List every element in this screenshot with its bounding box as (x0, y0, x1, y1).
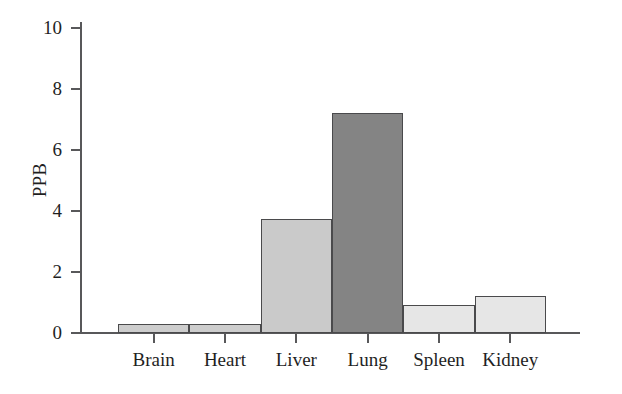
y-tick-mark (71, 271, 80, 273)
y-tick-mark (71, 332, 80, 334)
bar-kidney (475, 296, 546, 333)
bar-chart: PPB 0246810 BrainHeartLiverLungSpleenKid… (0, 0, 622, 394)
x-tick-mark (509, 334, 511, 343)
y-tick-label-wrap: 8 (0, 79, 62, 98)
x-tick-mark (367, 334, 369, 343)
bar-lung (332, 113, 403, 333)
y-tick-mark (71, 27, 80, 29)
y-tick-label: 2 (6, 262, 62, 281)
y-tick-mark (71, 149, 80, 151)
bar-brain (118, 324, 189, 333)
y-tick-label-wrap: 2 (0, 262, 62, 281)
x-tick-mark (438, 334, 440, 343)
y-axis-line (80, 22, 82, 334)
y-tick-label-wrap: 4 (0, 201, 62, 220)
y-tick-mark (71, 210, 80, 212)
y-tick-label: 10 (6, 18, 62, 37)
x-tick-mark (224, 334, 226, 343)
x-tick-mark (153, 334, 155, 343)
bar-heart (189, 324, 260, 333)
y-tick-mark (71, 88, 80, 90)
y-tick-label: 6 (6, 140, 62, 159)
y-tick-label-wrap: 6 (0, 140, 62, 159)
y-tick-label: 4 (6, 201, 62, 220)
x-tick-mark (295, 334, 297, 343)
y-tick-label-wrap: 0 (0, 323, 62, 342)
bar-liver (261, 219, 332, 333)
x-tick-label-kidney: Kidney (450, 349, 570, 371)
y-tick-label-wrap: 10 (0, 18, 62, 37)
y-axis-title: PPB (28, 120, 52, 240)
bar-spleen (403, 305, 474, 333)
y-tick-label: 8 (6, 79, 62, 98)
y-tick-label: 0 (6, 323, 62, 342)
